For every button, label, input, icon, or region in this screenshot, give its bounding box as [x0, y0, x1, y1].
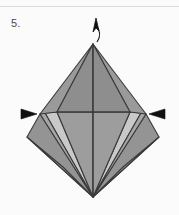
upper-face-right: [93, 44, 130, 112]
figure-shapes: [27, 44, 159, 197]
origami-figure: origami-kite-base-step-5 Symmetric kite/…: [0, 0, 179, 215]
upper-face-left: [57, 44, 93, 112]
pull-arrow-left-icon: [21, 109, 37, 119]
diagram-page: 5. origami-kite-base-step-5 Symmetric ki…: [0, 0, 179, 215]
curved-up-arrow-icon: [93, 18, 100, 42]
pull-arrow-right-icon: [149, 109, 165, 119]
